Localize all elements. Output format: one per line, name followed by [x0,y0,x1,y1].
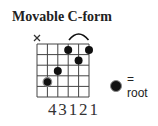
finger-label: 4 [47,100,57,120]
root-dot-icon [110,80,122,92]
finger-label: 1 [68,100,78,120]
fingering-labels: 43121 [33,100,99,120]
barre-arc-icon [69,34,89,40]
muted-string-icon [34,35,40,41]
root-dot-icon [43,78,52,87]
legend: = root [110,72,158,100]
finger-label: 1 [89,100,99,120]
fretboard-grid [37,44,89,97]
legend-label: = root [127,72,158,100]
dot-icon [75,57,83,65]
finger-label: 3 [57,100,67,120]
finger-label: 2 [78,100,88,120]
dot-icon [64,46,72,54]
dot-icon [85,46,93,54]
dot-icon [54,67,62,75]
